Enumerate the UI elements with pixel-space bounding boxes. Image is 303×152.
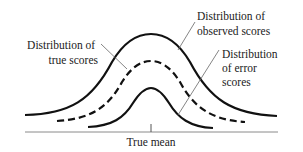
axis-label-true-mean: True mean [126, 136, 175, 148]
observed-label: Distribution of observed scores [197, 10, 271, 37]
true-label: Distribution of true scores [27, 39, 98, 66]
error-scores-curve [88, 88, 213, 128]
true-scores-curve [57, 61, 245, 122]
error-label: Distribution of error scores [222, 48, 280, 88]
observed-leader-line [178, 22, 195, 50]
score-distribution-diagram: Distribution of observed scores Distribu… [0, 0, 303, 152]
error-leader-line [178, 50, 219, 115]
